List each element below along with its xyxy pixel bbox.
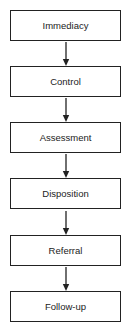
step-label: Assessment xyxy=(40,132,92,143)
arrow-down-icon xyxy=(62,211,70,235)
flowchart: Immediacy Control Assessment Disposition xyxy=(0,0,127,331)
step-label: Disposition xyxy=(42,188,88,199)
arrow-down-icon xyxy=(62,154,70,178)
arrow-down-icon xyxy=(62,42,70,66)
step-label: Follow-up xyxy=(45,301,86,312)
step-immediacy: Immediacy xyxy=(10,10,121,41)
arrow-down-icon xyxy=(62,98,70,122)
step-referral: Referral xyxy=(10,235,121,266)
step-follow-up: Follow-up xyxy=(10,291,121,322)
step-assessment: Assessment xyxy=(10,122,121,153)
step-label: Control xyxy=(50,76,81,87)
step-disposition: Disposition xyxy=(10,178,121,209)
step-control: Control xyxy=(10,66,121,97)
step-label: Referral xyxy=(49,245,83,256)
arrow-down-icon xyxy=(62,267,70,291)
step-label: Immediacy xyxy=(43,20,89,31)
